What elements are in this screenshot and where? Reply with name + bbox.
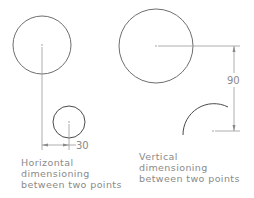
center-point-left xyxy=(41,44,43,46)
caption-line: dimensioning xyxy=(21,168,122,179)
caption-line: Horizontal xyxy=(21,157,122,168)
caption-line: between two points xyxy=(139,173,240,184)
dimension-value-30: 30 xyxy=(76,140,89,151)
caption-vertical: Vertical dimensioning between two points xyxy=(139,151,240,184)
caption-line: between two points xyxy=(21,179,122,190)
arrowhead-top xyxy=(233,46,236,52)
center-point-right xyxy=(155,45,157,47)
vertical-dimension-example: 90 xyxy=(119,9,242,135)
dimension-value-90: 90 xyxy=(227,75,240,86)
arc xyxy=(183,104,228,135)
caption-horizontal: Horizontal dimensioning between two poin… xyxy=(21,157,122,190)
arrowhead-left xyxy=(42,144,48,147)
caption-line: dimensioning xyxy=(139,162,240,173)
horizontal-dimension-example: 30 xyxy=(13,16,89,151)
arrowhead-bottom xyxy=(233,125,236,131)
center-point-small xyxy=(68,121,70,123)
arrowhead-right xyxy=(63,144,69,147)
caption-line: Vertical xyxy=(139,151,240,162)
arc-end-point xyxy=(212,130,214,132)
